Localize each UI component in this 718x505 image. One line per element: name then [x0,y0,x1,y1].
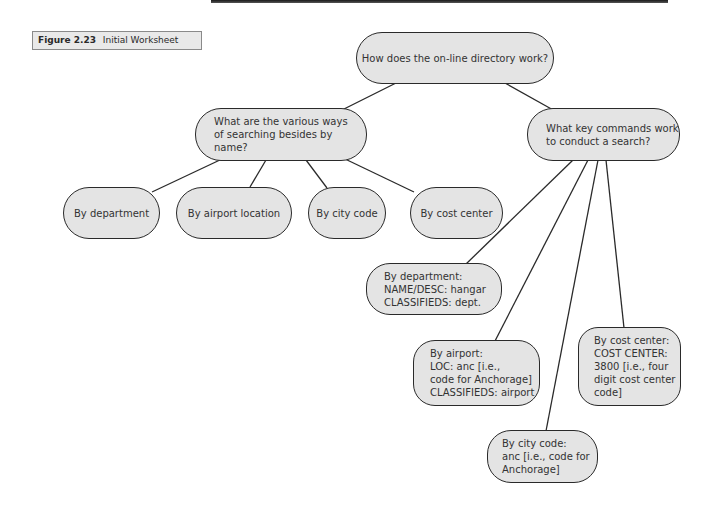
node-command-city-code: By city code: anc [i.e., code for Anchor… [487,430,598,483]
node-label: By airport location [188,207,280,220]
edge-root-commands [505,83,555,111]
node-label: By department: NAME/DESC: hangar CLASSIF… [384,270,486,309]
edge-ways-city [306,160,327,188]
node-label: By city code: anc [i.e., code for Anchor… [502,437,590,476]
node-by-city-code: By city code [308,187,386,239]
node-label: What are the various ways of searching b… [214,115,366,154]
node-label: By cost center [420,207,492,220]
edge-commands-cost [606,160,624,328]
node-label: By cost center: COST CENTER: 3800 [i.e.,… [594,334,675,399]
connector-lines [0,0,718,505]
node-label: What key commands work to conduct a sear… [546,122,679,148]
node-by-airport-location: By airport location [176,187,292,239]
node-by-department: By department [63,187,160,239]
node-label: By department [74,207,149,220]
node-by-cost-center: By cost center [410,187,503,239]
node-key-commands-question: What key commands work to conduct a sear… [527,108,680,161]
edge-commands-airport [495,160,588,341]
node-search-ways-question: What are the various ways of searching b… [195,108,367,161]
edge-root-ways [340,83,396,111]
node-label: How does the on-line directory work? [362,52,548,65]
edge-ways-airport [250,160,266,187]
node-command-department: By department: NAME/DESC: hangar CLASSIF… [366,263,502,315]
node-command-cost-center: By cost center: COST CENTER: 3800 [i.e.,… [578,327,681,406]
node-command-airport: By airport: LOC: anc [i.e., code for Anc… [413,340,540,406]
node-root-question: How does the on-line directory work? [356,32,554,84]
node-label: By airport: LOC: anc [i.e., code for Anc… [430,347,534,399]
node-label: By city code [316,207,377,220]
